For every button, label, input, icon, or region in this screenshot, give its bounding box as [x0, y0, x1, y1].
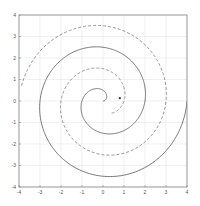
center-point	[119, 97, 121, 99]
x-tick-label: 4	[186, 189, 189, 195]
x-tick-label: -4	[17, 189, 22, 195]
x-tick-label: 2	[144, 189, 147, 195]
y-tick-label: -1	[12, 119, 17, 125]
x-tick-label: 3	[165, 189, 168, 195]
y-tick-label: 3	[13, 33, 16, 39]
spiral-chart: -4-3-2-101234 -4-3-2-101234	[0, 0, 200, 206]
y-tick-label: 0	[13, 98, 16, 104]
y-tick-label: -4	[12, 184, 17, 190]
y-tick-label: 2	[13, 55, 16, 61]
spiral-solid	[40, 47, 187, 177]
y-tick-label: -2	[12, 141, 17, 147]
x-tick-label: 1	[123, 189, 126, 195]
x-tick-label: 0	[102, 189, 105, 195]
plot-markers	[119, 97, 121, 99]
y-tick-label: -3	[12, 162, 17, 168]
y-tick-label: 4	[13, 12, 16, 18]
x-axis-ticks: -4-3-2-101234	[17, 185, 189, 195]
y-axis-ticks: -4-3-2-101234	[12, 12, 21, 190]
x-tick-label: -1	[80, 189, 85, 195]
x-tick-label: -2	[59, 189, 64, 195]
y-tick-label: 1	[13, 76, 16, 82]
x-tick-label: -3	[38, 189, 43, 195]
spiral-dashed	[21, 25, 166, 155]
